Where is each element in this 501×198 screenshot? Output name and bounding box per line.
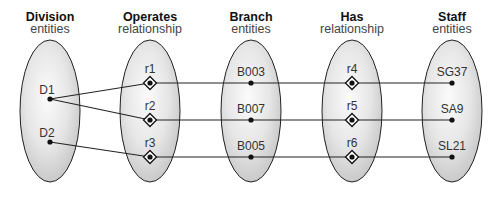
entity-dot-icon — [248, 80, 253, 85]
header-division: Division entities — [26, 10, 75, 36]
node-label: r3 — [145, 136, 156, 150]
node-label: B005 — [237, 139, 265, 153]
header-subtitle: relationship — [320, 22, 384, 36]
entity-dot-icon — [449, 154, 454, 159]
node-label: B003 — [237, 65, 265, 79]
entity-dot-icon — [47, 96, 52, 101]
node-r5: r5 — [346, 99, 359, 127]
node-label: r6 — [347, 136, 358, 150]
node-label: D1 — [39, 83, 55, 97]
entity-dot-icon — [47, 139, 52, 144]
node-label: SG37 — [437, 65, 468, 79]
node-r2: r2 — [144, 99, 157, 127]
node-r1: r1 — [144, 62, 157, 90]
division-set-ellipse — [20, 40, 80, 182]
node-label: r5 — [347, 99, 358, 113]
division-branch-staff-diagram: Division entities Operates relationship … — [0, 0, 501, 198]
header-subtitle: relationship — [118, 22, 182, 36]
entity-dot-icon — [449, 117, 454, 122]
header-subtitle: entities — [231, 22, 271, 36]
entity-dot-icon — [248, 154, 253, 159]
node-label: SL21 — [438, 139, 466, 153]
node-label: SA9 — [441, 102, 464, 116]
node-label: r1 — [145, 62, 156, 76]
header-staff: Staff entities — [432, 10, 472, 36]
header-subtitle: entities — [30, 22, 70, 36]
node-label: r4 — [347, 62, 358, 76]
node-r4: r4 — [346, 62, 359, 90]
node-r3: r3 — [144, 136, 157, 164]
node-label: B007 — [237, 102, 265, 116]
entity-dot-icon — [449, 80, 454, 85]
header-branch: Branch entities — [229, 10, 272, 36]
header-has: Has relationship — [320, 10, 384, 36]
header-operates: Operates relationship — [118, 10, 182, 36]
node-label: r2 — [145, 99, 156, 113]
header-subtitle: entities — [432, 22, 472, 36]
node-r6: r6 — [346, 136, 359, 164]
entity-dot-icon — [248, 117, 253, 122]
node-label: D2 — [39, 126, 55, 140]
